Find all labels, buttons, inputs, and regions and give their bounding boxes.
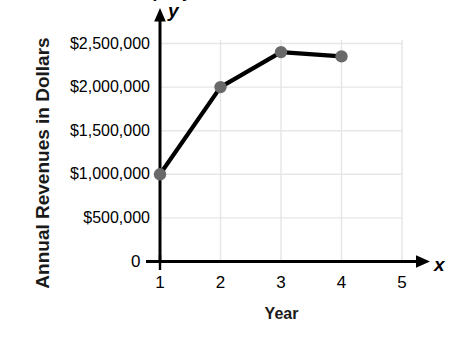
x-tick-label-1: 1 <box>140 273 180 293</box>
origin-label: 0 <box>131 252 140 272</box>
data-line <box>160 52 342 174</box>
y-axis-arrow <box>154 8 166 22</box>
data-point-year-2 <box>214 81 226 93</box>
x-tick-label-2: 2 <box>201 273 241 293</box>
data-point-year-3 <box>275 46 287 58</box>
data-point-year-4 <box>335 50 347 62</box>
y-tick-label-1500000: $1,500,000 <box>0 122 150 140</box>
x-tick-label-4: 4 <box>322 273 362 293</box>
x-axis-letter: x <box>434 254 445 276</box>
data-point-year-1 <box>154 168 166 180</box>
chart-screenshot: Company A's Annual Revenue Annual Revenu… <box>0 0 453 338</box>
y-tick-label-2000000: $2,000,000 <box>0 78 150 96</box>
y-axis-letter: y <box>168 0 179 22</box>
y-tick-label-500000: $500,000 <box>0 209 150 227</box>
data-point-markers <box>154 46 348 181</box>
y-tick-label-1000000: $1,000,000 <box>0 165 150 183</box>
x-axis-arrow <box>416 255 430 267</box>
x-tick-label-5: 5 <box>382 273 422 293</box>
x-axis-title: Year <box>160 305 403 323</box>
x-axis <box>146 255 430 267</box>
x-tick-label-3: 3 <box>261 273 301 293</box>
y-tick-label-2500000: $2,500,000 <box>0 35 150 53</box>
y-axis <box>154 8 166 262</box>
